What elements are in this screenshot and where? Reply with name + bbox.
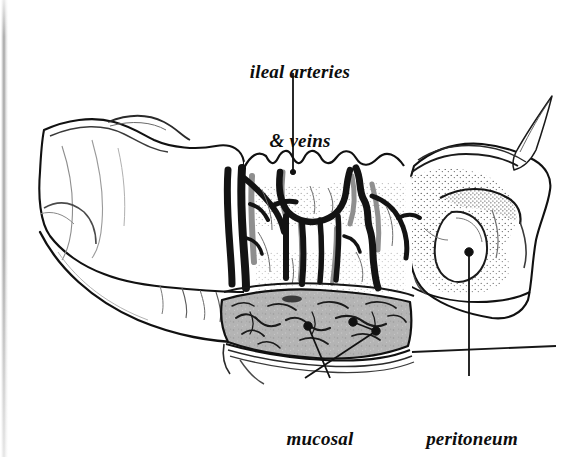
vasa-recta-2 xyxy=(302,222,304,284)
serosa-right-edge xyxy=(412,346,556,352)
right-flap-recess xyxy=(435,212,487,282)
wall-left-edge xyxy=(223,344,230,374)
leader-dot-peritoneum xyxy=(465,248,473,256)
mucosa-top-oval xyxy=(282,296,302,303)
label-peritoneum-line-1: peritoneum xyxy=(372,427,572,450)
label-ileal-line-2: & veins xyxy=(205,129,395,152)
right-peritoneal-flap xyxy=(396,96,552,318)
leader-dot-mucosal-c xyxy=(349,318,357,326)
label-ileal-arteries-and-veins: ileal arteries & veins xyxy=(205,14,395,198)
leader-dot-mucosal-a xyxy=(304,322,312,330)
left-flap-tag-2 xyxy=(200,290,205,320)
label-ileal-line-1: ileal arteries xyxy=(205,60,395,83)
vasa-recta-4 xyxy=(336,216,339,280)
vasa-recta-3 xyxy=(320,220,322,282)
anatomy-figure: ileal arteries & veins mucosal folds per… xyxy=(0,0,576,457)
mucosa-surface xyxy=(221,289,411,358)
left-flap-tag-1 xyxy=(182,288,187,318)
left-flap-tag-4 xyxy=(160,286,163,314)
left-flap-tag-3 xyxy=(216,292,221,322)
label-peritoneum-of-mesentery: peritoneum of mesentery (cut) xyxy=(372,381,572,457)
